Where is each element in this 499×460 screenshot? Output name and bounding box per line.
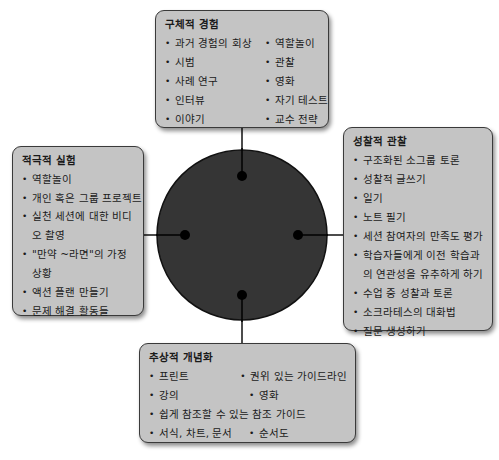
item-list: 구조화된 소그룹 토론 성찰적 글쓰기 일기 노트 필기 세션 참여자의 만족도… xyxy=(353,151,484,341)
list-item: 권위 있는 가이드라인 xyxy=(240,367,347,386)
list-item: 수업 중 성찰과 토론 xyxy=(353,284,484,303)
list-item: 실천 세션에 대한 비디오 촬영 xyxy=(22,207,135,245)
list-item: 교수 전략 xyxy=(265,110,328,129)
list-item: 노트 필기 xyxy=(353,208,484,227)
list-item: 관찰 xyxy=(265,53,328,72)
list-item: 과거 경험의 회상 xyxy=(165,34,265,53)
list-item: "만약 ~라면"의 가정 상황 xyxy=(22,245,135,283)
list-item: 질문 생성하기 xyxy=(353,322,484,341)
list-item: 서식, 차트, 문서 xyxy=(149,424,249,443)
list-item: 역할놀이 xyxy=(22,170,135,189)
list-item: 소크라테스의 대화법 xyxy=(353,303,484,322)
box-reflective-observation: 성찰적 관찰 구조화된 소그룹 토론 성찰적 글쓰기 일기 노트 필기 세션 참… xyxy=(343,127,493,331)
box-title: 추상적 개념화 xyxy=(149,349,347,366)
list-col-2: 역할놀이 관찰 영화 자기 테스트 교수 전략 xyxy=(265,34,328,129)
dot-bottom xyxy=(237,290,247,300)
item-row: 서식, 차트, 문서 순서도 xyxy=(149,424,347,443)
list-item: 문제 해결 활동들 xyxy=(22,302,135,321)
list-item: 강의 xyxy=(149,386,249,405)
box-title: 구체적 경험 xyxy=(165,16,320,33)
list-item: 영화 xyxy=(265,72,328,91)
list-item: 자기 테스트 xyxy=(265,91,328,110)
list-item: 쉽게 참조할 수 있는 참조 가이드 xyxy=(149,405,306,424)
list-item: 학습자들에게 이전 학습과의 연관성을 유추하게 하기 xyxy=(353,246,484,284)
list-item: 순서도 xyxy=(249,424,289,443)
item-row: 강의 영화 xyxy=(149,386,347,405)
box-title: 성찰적 관찰 xyxy=(353,133,484,150)
box-concrete-experience: 구체적 경험 과거 경험의 회상 시범 사례 연구 인터뷰 이야기 역할놀이 관… xyxy=(155,10,329,128)
item-row: 쉽게 참조할 수 있는 참조 가이드 xyxy=(149,405,347,424)
list-item: 역할놀이 xyxy=(265,34,328,53)
dot-top xyxy=(237,171,247,181)
list-item: 개인 혹은 그룹 프로젝트 xyxy=(22,189,135,208)
box-title: 적극적 실험 xyxy=(22,152,135,169)
box-abstract-conceptualization: 추상적 개념화 프린트 권위 있는 가이드라인 강의 영화 쉽게 참조할 수 있… xyxy=(139,343,356,443)
dot-left xyxy=(180,230,190,240)
item-list: 역할놀이 개인 혹은 그룹 프로젝트 실천 세션에 대한 비디오 촬영 "만약 … xyxy=(22,170,135,320)
list-item: 인터뷰 xyxy=(165,91,265,110)
list-item: 일기 xyxy=(353,189,484,208)
list-item: 시범 xyxy=(165,53,265,72)
box-active-experimentation: 적극적 실험 역할놀이 개인 혹은 그룹 프로젝트 실천 세션에 대한 비디오 … xyxy=(12,146,144,316)
list-item: 사례 연구 xyxy=(165,72,265,91)
list-item: 이야기 xyxy=(165,110,265,129)
list-item: 구조화된 소그룹 토론 xyxy=(353,151,484,170)
list-item: 세션 참여자의 만족도 평가 xyxy=(353,227,484,246)
list-item: 액션 플랜 만들기 xyxy=(22,283,135,302)
item-row: 프린트 권위 있는 가이드라인 xyxy=(149,367,347,386)
dot-right xyxy=(293,230,303,240)
list-item: 영화 xyxy=(249,386,279,405)
list-col-1: 과거 경험의 회상 시범 사례 연구 인터뷰 이야기 xyxy=(165,34,265,129)
list-item: 프린트 xyxy=(149,367,240,386)
list-item: 성찰적 글쓰기 xyxy=(353,170,484,189)
